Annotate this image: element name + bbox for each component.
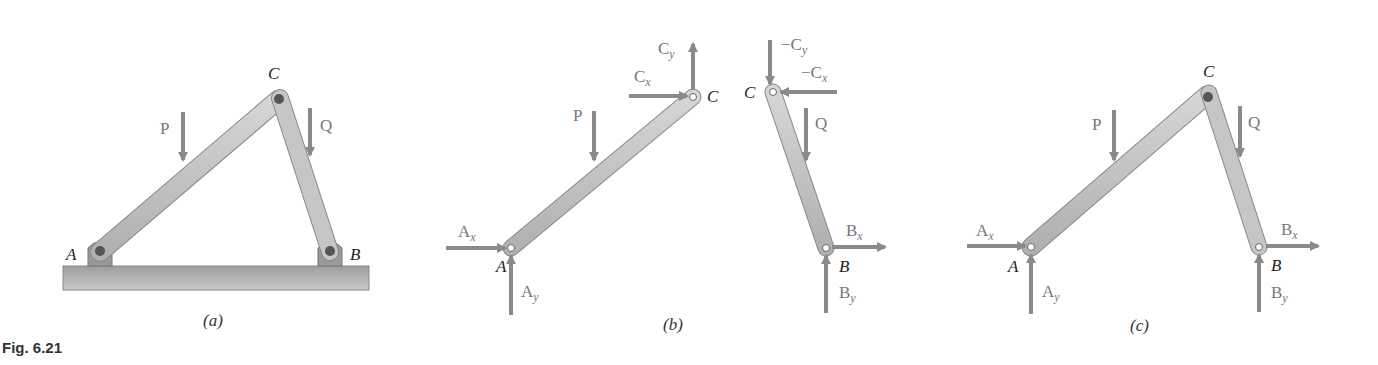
- label-neg-cy: −Cy: [781, 35, 808, 57]
- label-ax: Ax: [458, 222, 476, 244]
- label-c-right: C: [744, 83, 756, 102]
- pin-hole-c: [690, 94, 697, 101]
- label-b: B: [1271, 256, 1282, 275]
- pin-hole-a: [1028, 244, 1035, 251]
- pin-a: [95, 246, 105, 256]
- label-neg-cx: −Cx: [801, 63, 828, 85]
- label-cx: Cx: [634, 67, 651, 89]
- label-ay: Ay: [521, 282, 539, 304]
- label-ay: Ay: [1042, 282, 1060, 304]
- label-a: A: [1007, 257, 1019, 276]
- panel-c: Ax Ay P Q C A B Bx By (c): [967, 62, 1318, 335]
- pin-b: [325, 246, 335, 256]
- label-bx: Bx: [1281, 220, 1298, 242]
- label-c-left: C: [707, 87, 719, 106]
- pin-hole-b: [1256, 244, 1263, 251]
- member-ac: [511, 97, 693, 248]
- label-b: B: [350, 245, 361, 264]
- label-q: Q: [1248, 113, 1260, 132]
- pin-c: [274, 94, 284, 104]
- label-b: B: [839, 257, 850, 276]
- label-q: Q: [320, 116, 332, 135]
- figure-canvas: P Q A B C (a) Ax Ay Cx Cy P: [0, 0, 1378, 365]
- label-by: By: [1271, 283, 1288, 305]
- label-by: By: [839, 283, 856, 305]
- pin-c: [1203, 92, 1213, 102]
- panel-b: Ax Ay Cx Cy P C A −Cy −Cx C Q Bx B By (b…: [446, 35, 885, 334]
- label-c: C: [1203, 62, 1215, 81]
- label-p: P: [1092, 115, 1101, 134]
- panel-a: P Q A B C (a): [63, 64, 369, 330]
- caption-b: (b): [663, 315, 683, 334]
- ground: [63, 266, 369, 290]
- label-p: P: [160, 119, 169, 138]
- pin-hole-a: [508, 245, 515, 252]
- label-p: P: [573, 106, 582, 125]
- label-c: C: [268, 64, 280, 83]
- caption-a: (a): [203, 311, 223, 330]
- label-ax: Ax: [976, 221, 994, 243]
- member-ac: [1031, 95, 1207, 247]
- member-ac: [100, 100, 278, 252]
- label-bx: Bx: [846, 221, 863, 243]
- pin-hole-c2: [770, 89, 777, 96]
- caption-c: (c): [1130, 316, 1149, 335]
- pin-hole-b: [823, 245, 830, 252]
- label-a: A: [495, 257, 507, 276]
- label-cy: Cy: [658, 39, 675, 61]
- label-q: Q: [815, 114, 827, 133]
- label-a: A: [65, 245, 77, 264]
- figure-label: Fig. 6.21: [2, 339, 62, 356]
